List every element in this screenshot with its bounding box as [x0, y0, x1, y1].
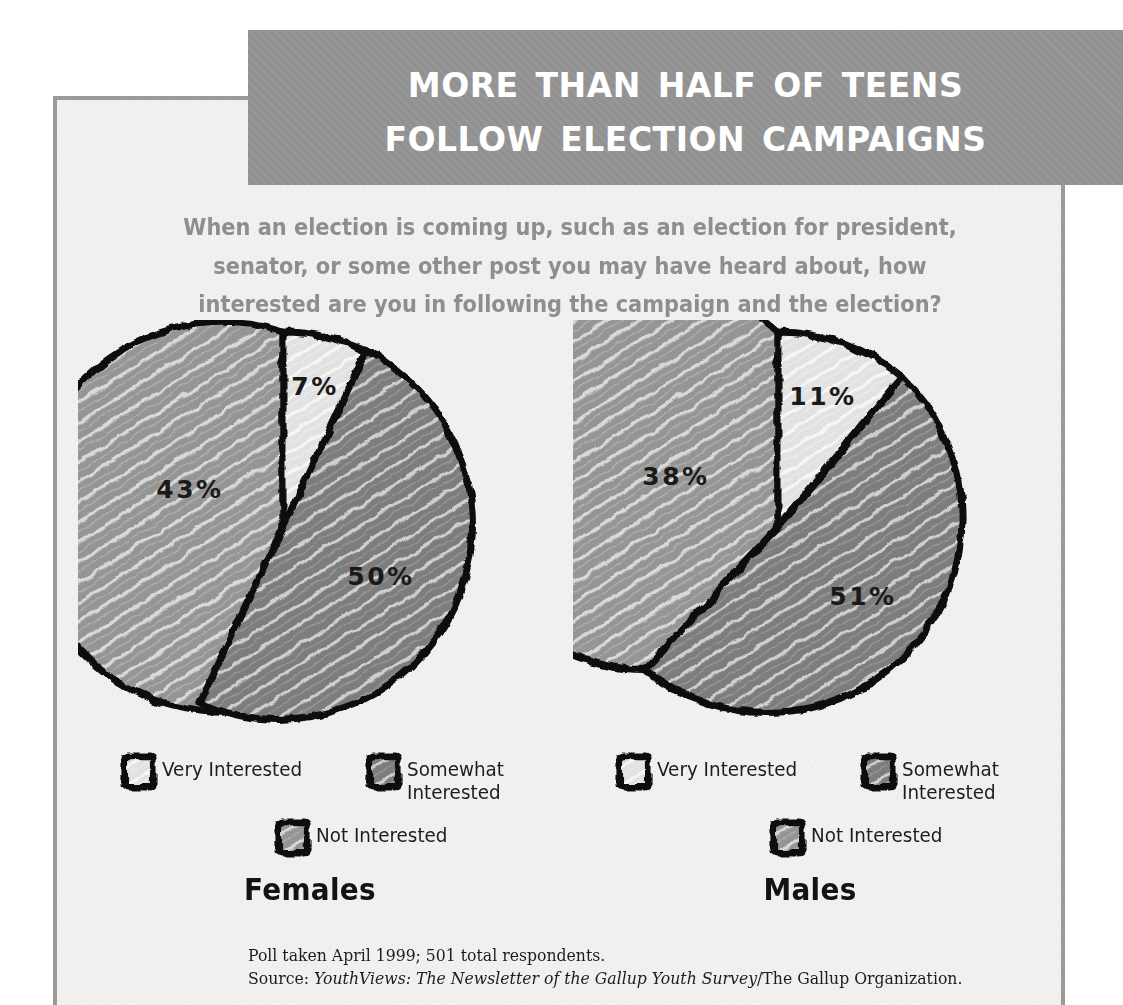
legend-label-somewhat-interested: Somewhat Interested	[407, 758, 504, 804]
legend-swatch-somewhat-interested-icon	[860, 752, 898, 792]
group-caption-females: Females	[189, 872, 431, 907]
source-suffix: /The Gallup Organization.	[757, 969, 962, 988]
legend-item-very-interested[interactable]: Very Interested	[120, 752, 365, 792]
legend-label-very-interested: Very Interested	[162, 758, 302, 781]
pie-label-females-somewhat: 50%	[347, 562, 414, 591]
legend-swatch-somewhat-interested-icon	[365, 752, 403, 792]
legend-row: Very Interested Somewhat Interested	[615, 752, 1085, 804]
source-line-1: Poll taken April 1999; 501 total respond…	[248, 944, 962, 967]
source-line-2: Source: YouthViews: The Newsletter of th…	[248, 967, 962, 990]
legend-item-very-interested[interactable]: Very Interested	[615, 752, 860, 792]
legend-males: Very Interested Somewhat Interested Not …	[615, 752, 1085, 858]
group-caption-males: Males	[689, 872, 931, 907]
legend-swatch-not-interested-icon	[769, 818, 807, 858]
source-note: Poll taken April 1999; 501 total respond…	[248, 944, 962, 991]
survey-question: When an election is coming up, such as a…	[152, 208, 989, 324]
legend-swatch-very-interested-icon	[615, 752, 653, 792]
charts-container: 7% 50% 43% 11% 51% 38%	[53, 320, 1065, 740]
legend-row: Not Interested	[120, 818, 590, 858]
pie-label-males-very: 11%	[789, 382, 856, 411]
pie-chart-males: 11% 51% 38%	[573, 320, 993, 740]
legend-item-somewhat-interested[interactable]: Somewhat Interested	[860, 752, 1085, 804]
pie-label-females-very: 7%	[291, 372, 338, 401]
legend-swatch-very-interested-icon	[120, 752, 158, 792]
legend-swatch-not-interested-icon	[274, 818, 312, 858]
legend-label-not-interested: Not Interested	[811, 824, 942, 847]
legend-item-not-interested[interactable]: Not Interested	[274, 818, 456, 858]
legend-item-not-interested[interactable]: Not Interested	[769, 818, 951, 858]
pie-label-males-not: 38%	[642, 462, 709, 491]
legend-label-not-interested: Not Interested	[316, 824, 447, 847]
legend-row: Very Interested Somewhat Interested	[120, 752, 590, 804]
pie-label-males-somewhat: 51%	[829, 582, 896, 611]
legend-label-very-interested: Very Interested	[657, 758, 797, 781]
pie-label-females-not: 43%	[156, 475, 223, 504]
source-prefix: Source:	[248, 969, 314, 988]
banner-title-line-2: Follow Election Campaigns	[385, 111, 987, 159]
title-banner: More than Half of Teens Follow Election …	[248, 30, 1123, 185]
source-publication: YouthViews: The Newsletter of the Gallup…	[314, 969, 757, 988]
legend-item-somewhat-interested[interactable]: Somewhat Interested	[365, 752, 590, 804]
pie-chart-females: 7% 50% 43%	[78, 320, 498, 740]
banner-title-line-1: More than Half of Teens	[408, 57, 963, 105]
legend-label-somewhat-interested: Somewhat Interested	[902, 758, 999, 804]
legend-females: Very Interested Somewhat Interested Not …	[120, 752, 590, 858]
legend-row: Not Interested	[615, 818, 1085, 858]
